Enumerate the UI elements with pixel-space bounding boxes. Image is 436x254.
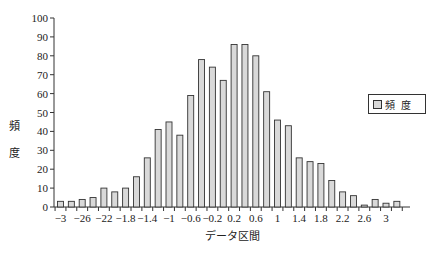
histogram-bar	[112, 192, 118, 207]
x-tick-label: −26	[74, 212, 92, 224]
x-tick-label: −1.8	[116, 212, 136, 224]
legend-label: 頻度	[385, 97, 417, 112]
histogram-bar	[68, 201, 74, 207]
x-tick-label: 0.6	[249, 212, 263, 224]
histogram-bar	[101, 188, 107, 207]
x-tick-label: −3	[55, 212, 67, 224]
y-axis-title-line2: 度	[9, 146, 20, 160]
x-tick-label: 2.2	[336, 212, 350, 224]
histogram-bar	[144, 158, 150, 207]
histogram-bar	[209, 67, 215, 207]
y-tick-label: 10	[37, 182, 49, 194]
x-tick-label: −1.4	[137, 212, 157, 224]
x-tick-label: 0.2	[227, 212, 241, 224]
y-tick-label: 100	[32, 12, 49, 24]
legend: 頻度	[368, 94, 426, 114]
histogram-bar	[383, 203, 389, 207]
histogram-bar	[350, 196, 356, 207]
histogram-bar	[155, 130, 161, 207]
legend-swatch-icon	[373, 100, 382, 109]
y-tick-label: 40	[37, 125, 49, 137]
y-tick-label: 30	[37, 144, 49, 156]
histogram-bar	[188, 95, 194, 207]
histogram-bar	[90, 198, 96, 207]
y-tick-label: 20	[37, 163, 49, 175]
histogram-bar	[296, 158, 302, 207]
y-tick-label: 0	[43, 201, 49, 213]
y-tick-label: 50	[37, 107, 49, 119]
x-tick-label: −0.2	[202, 212, 222, 224]
x-tick-label: 1.4	[292, 212, 306, 224]
histogram-bar	[329, 181, 335, 207]
histogram-bar	[264, 92, 270, 207]
x-tick-label: 3	[383, 212, 389, 224]
histogram-bar	[177, 135, 183, 207]
histogram-bar	[394, 201, 400, 207]
histogram-bar	[231, 44, 237, 207]
histogram-bar	[220, 80, 226, 207]
histogram-bar	[242, 44, 248, 207]
y-tick-label: 70	[37, 69, 49, 81]
x-axis: −3−26−22−1.8−1.4−1−0.6−0.20.20.611.41.82…	[54, 207, 410, 224]
histogram-bar	[285, 126, 291, 207]
histogram-bar	[275, 120, 281, 207]
histogram-bar	[58, 201, 64, 207]
x-tick-label: 2.6	[357, 212, 371, 224]
histogram-bar	[372, 199, 378, 207]
histogram-bar	[123, 188, 129, 207]
y-axis: 0102030405060708090100	[32, 12, 55, 213]
histogram-bar	[340, 192, 346, 207]
histogram-bar	[166, 122, 172, 207]
histogram-bar	[307, 162, 313, 207]
histogram-bar	[318, 164, 324, 207]
histogram-bar	[79, 199, 85, 207]
y-tick-label: 90	[37, 31, 49, 43]
histogram-bar	[361, 205, 367, 207]
bar-series	[58, 44, 400, 207]
x-tick-label: 1.8	[314, 212, 328, 224]
x-axis-title: データ区間	[205, 229, 260, 243]
histogram-chart: 0102030405060708090100 −3−26−22−1.8−1.4−…	[0, 0, 436, 254]
y-axis-title-line1: 頻	[9, 119, 20, 133]
y-tick-label: 60	[37, 88, 49, 100]
histogram-bar	[253, 56, 259, 207]
x-tick-label: −1	[163, 212, 175, 224]
histogram-bar	[199, 60, 205, 207]
x-tick-label: −0.6	[181, 212, 201, 224]
x-tick-label: 1	[275, 212, 281, 224]
y-tick-label: 80	[37, 50, 49, 62]
histogram-bar	[133, 177, 139, 207]
x-tick-label: −22	[95, 212, 112, 224]
